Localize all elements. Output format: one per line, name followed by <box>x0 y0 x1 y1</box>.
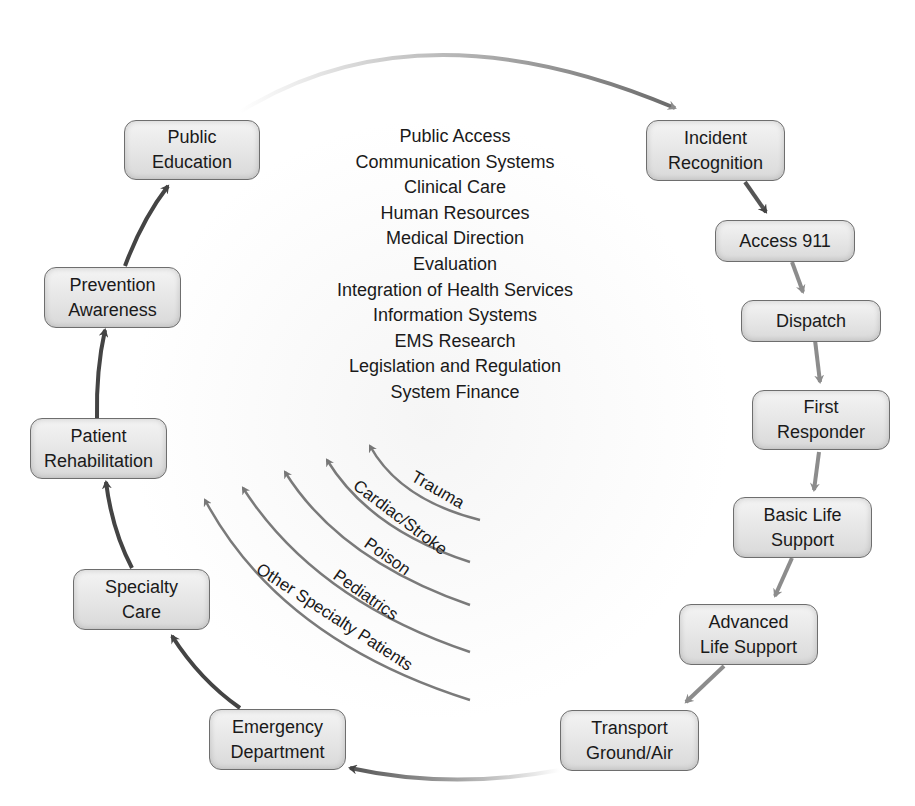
node-label: Responder <box>753 420 889 445</box>
node-label: Department <box>210 740 345 765</box>
node-label: Prevention <box>45 273 180 298</box>
component-item: System Finance <box>300 380 610 406</box>
node-label: Ground/Air <box>561 741 698 766</box>
node-dispatch: Dispatch <box>741 300 881 342</box>
node-label: First <box>753 395 889 420</box>
node-label: Transport <box>561 716 698 741</box>
node-label: Public <box>125 125 259 150</box>
node-transport: Transport Ground/Air <box>560 710 699 771</box>
node-specialty-care: Specialty Care <box>73 569 210 630</box>
node-access-911: Access 911 <box>715 220 855 262</box>
node-label: Support <box>734 528 871 553</box>
component-item: Integration of Health Services <box>300 278 610 304</box>
node-label: Incident <box>647 126 784 151</box>
component-item: Clinical Care <box>300 175 610 201</box>
node-public-education: Public Education <box>124 120 260 180</box>
node-label: Emergency <box>210 715 345 740</box>
component-item: Medical Direction <box>300 226 610 252</box>
node-label: Education <box>125 150 259 175</box>
component-item: Human Resources <box>300 201 610 227</box>
node-label: Advanced <box>680 610 817 635</box>
node-label: Basic Life <box>734 503 871 528</box>
component-item: Information Systems <box>300 303 610 329</box>
node-label: Care <box>74 600 209 625</box>
node-advanced-life-support: Advanced Life Support <box>679 604 818 665</box>
node-label: Specialty <box>74 575 209 600</box>
component-item: Evaluation <box>300 252 610 278</box>
node-first-responder: First Responder <box>752 390 890 450</box>
component-item: Legislation and Regulation <box>300 354 610 380</box>
node-label: Access 911 <box>716 229 854 254</box>
node-label: Recognition <box>647 151 784 176</box>
node-label: Awareness <box>45 298 180 323</box>
node-label: Life Support <box>680 635 817 660</box>
component-item: Public Access <box>300 124 610 150</box>
node-patient-rehabilitation: Patient Rehabilitation <box>30 418 167 479</box>
node-emergency-department: Emergency Department <box>209 709 346 770</box>
component-item: EMS Research <box>300 329 610 355</box>
system-components-list: Public Access Communication Systems Clin… <box>300 124 610 406</box>
component-item: Communication Systems <box>300 150 610 176</box>
ems-cycle-diagram: Trauma Cardiac/Stroke Poison Pediatrics … <box>0 0 915 806</box>
node-basic-life-support: Basic Life Support <box>733 497 872 558</box>
node-label: Rehabilitation <box>31 449 166 474</box>
node-incident-recognition: Incident Recognition <box>646 120 785 181</box>
node-prevention-awareness: Prevention Awareness <box>44 267 181 328</box>
node-label: Patient <box>31 424 166 449</box>
node-label: Dispatch <box>742 309 880 334</box>
